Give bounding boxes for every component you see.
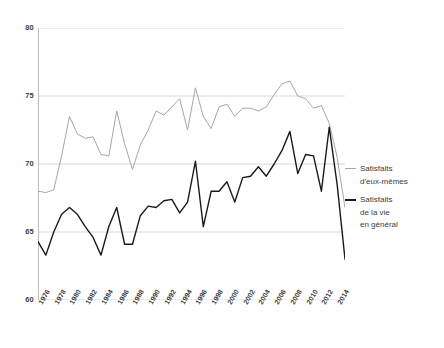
chart-legend: Satisfaits d'eux-mêmes Satisfaits de la … — [345, 163, 444, 238]
legend-label-group: Satisfaits d'eux-mêmes — [360, 163, 408, 188]
y-tick-label: 65 — [12, 228, 34, 236]
plot-area — [38, 28, 345, 300]
y-tick-label: 80 — [12, 24, 34, 32]
gray-line-swatch — [345, 168, 356, 169]
y-tick-label: 70 — [12, 160, 34, 168]
legend-entry-satisfaits-de-la-vie: Satisfaits de la vie en général — [345, 194, 444, 232]
chart-svg — [38, 28, 345, 300]
legend-label-line2: d'eux-mêmes — [360, 176, 408, 189]
chart-container: 6065707580 19761978198019821984198619881… — [0, 0, 444, 348]
legend-label-line3: en général — [360, 219, 398, 232]
series-line-1 — [38, 127, 345, 259]
black-line-swatch — [345, 199, 356, 201]
y-tick-label: 60 — [12, 296, 34, 304]
y-axis-labels: 6065707580 — [8, 0, 34, 348]
legend-entry-satisfaits-deux-memes: Satisfaits d'eux-mêmes — [345, 163, 444, 188]
series-line-0 — [38, 81, 345, 207]
gridlines — [38, 28, 345, 300]
legend-label-line1: Satisfaits — [360, 194, 398, 207]
legend-label-group: Satisfaits de la vie en général — [360, 194, 398, 232]
y-tick-label: 75 — [12, 92, 34, 100]
legend-label-line2: de la vie — [360, 207, 398, 220]
x-axis-labels: 1976197819801982198419861988199019921994… — [38, 300, 345, 348]
legend-label-line1: Satisfaits — [360, 163, 408, 176]
